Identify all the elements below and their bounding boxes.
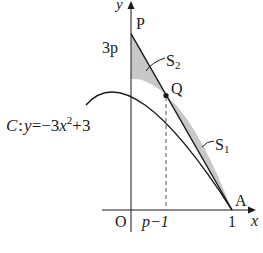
curve-equation-label: C:y=−3x2+3 bbox=[6, 114, 90, 135]
curve-rhs-suffix: +3 bbox=[72, 116, 90, 135]
curve-eq: = bbox=[32, 116, 42, 135]
curve-rhs-prefix: −3 bbox=[41, 116, 59, 135]
region-s1-label: S1 bbox=[215, 136, 229, 155]
region-s1-letter: S bbox=[215, 136, 224, 153]
parabola-curve bbox=[86, 92, 232, 210]
point-q-label: Q bbox=[171, 80, 183, 97]
point-a-label: A bbox=[235, 192, 247, 209]
curve-name: C bbox=[6, 116, 18, 135]
y-tick-3p: 3p bbox=[102, 39, 118, 57]
leader-s1 bbox=[202, 141, 214, 147]
y-axis-arrow-icon bbox=[128, 1, 135, 9]
origin-label: O bbox=[115, 213, 127, 230]
line-pa bbox=[131, 34, 232, 210]
region-s2-sub: 2 bbox=[175, 59, 181, 71]
y-axis-label: y bbox=[114, 0, 123, 12]
curve-lhs: y bbox=[22, 116, 32, 135]
x-tick-1: 1 bbox=[228, 213, 236, 230]
y-tick-3p-text: 3p bbox=[102, 39, 118, 57]
region-s2-letter: S bbox=[166, 52, 175, 69]
x-axis-label: x bbox=[250, 212, 258, 229]
curve-colon: : bbox=[18, 116, 23, 135]
parabola-tangent-diagram: y P 3p S2 Q C:y=−3x2+3 S1 A O p−1 1 x bbox=[0, 0, 263, 253]
region-s2-label: S2 bbox=[166, 52, 180, 71]
point-p-label: P bbox=[136, 15, 145, 32]
x-tick-p-minus-1: p−1 bbox=[141, 213, 169, 231]
point-q-dot bbox=[163, 93, 168, 98]
region-s1-sub: 1 bbox=[224, 143, 230, 155]
